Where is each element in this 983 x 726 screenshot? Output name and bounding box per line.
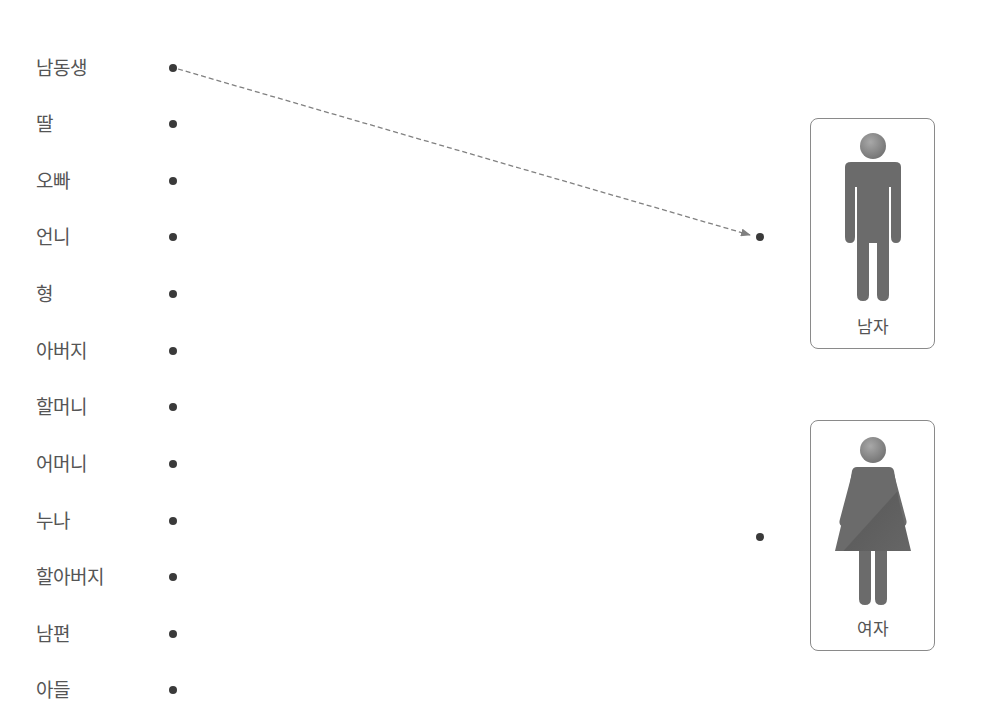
dashed-arrow-connection: [178, 69, 750, 235]
male-card: 남자: [810, 118, 935, 349]
target-dot-male[interactable]: [756, 233, 764, 241]
female-card: 여자: [810, 420, 935, 651]
target-dot-female[interactable]: [756, 533, 764, 541]
male-label: 남자: [811, 313, 934, 338]
female-label: 여자: [811, 615, 934, 640]
